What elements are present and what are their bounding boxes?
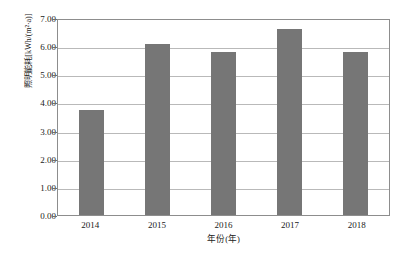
bar-slot bbox=[124, 20, 190, 215]
bar-2014[interactable] bbox=[79, 110, 104, 215]
bar-slot bbox=[58, 20, 124, 215]
y-axis-tick-mark bbox=[52, 132, 57, 133]
x-axis-tick-label: 2017 bbox=[257, 219, 324, 233]
x-axis-tick-label: 2014 bbox=[57, 219, 124, 233]
x-axis-title: 年份(年) bbox=[57, 233, 390, 245]
y-axis-tick-mark bbox=[52, 103, 57, 104]
y-axis-tick-labels: 7.006.005.004.003.002.001.000.00 bbox=[24, 19, 56, 216]
x-axis-tick-label: 2018 bbox=[323, 219, 390, 233]
bar-2016[interactable] bbox=[211, 52, 236, 215]
y-axis-tick-mark bbox=[52, 160, 57, 161]
plot-area bbox=[57, 19, 390, 216]
bar-slot bbox=[190, 20, 256, 215]
y-axis-tick-mark bbox=[52, 19, 57, 20]
bar-2015[interactable] bbox=[145, 44, 170, 215]
x-axis-tick-labels: 20142015201620172018 bbox=[57, 219, 390, 233]
x-axis-tick-label: 2015 bbox=[124, 219, 191, 233]
bar-slot bbox=[323, 20, 389, 215]
bar-2017[interactable] bbox=[277, 29, 302, 215]
bar-2018[interactable] bbox=[343, 52, 368, 215]
x-axis-tick-label: 2016 bbox=[190, 219, 257, 233]
bars-group bbox=[58, 20, 389, 215]
y-axis-tick-mark bbox=[52, 47, 57, 48]
y-axis-tick-mark bbox=[52, 75, 57, 76]
y-axis-tick-mark bbox=[52, 216, 57, 217]
y-axis-tick-mark bbox=[52, 188, 57, 189]
bar-chart: 照明能耗[kWh/(m²·a)] 7.006.005.004.003.002.0… bbox=[0, 0, 405, 254]
bar-slot bbox=[257, 20, 323, 215]
